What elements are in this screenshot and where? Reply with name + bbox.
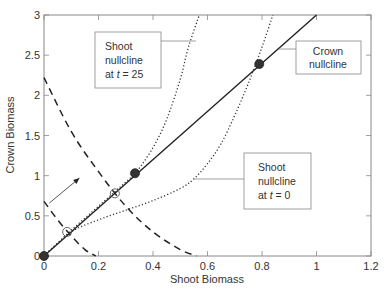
callout-shoot-nullcline-t25: Shoot nullcline at t = 25	[95, 32, 196, 88]
dashed-isocline-upper-line	[44, 78, 197, 256]
callout-crown-nullcline: Crown nullcline	[279, 41, 361, 74]
y-tick-label: 2	[34, 89, 40, 101]
y-tick-label: 1.5	[25, 130, 40, 142]
x-tick-label: 1.2	[363, 260, 378, 272]
svg-text:Crown: Crown	[313, 45, 344, 57]
x-axis-title: Shoot Biomass	[170, 273, 244, 285]
crown-nullcline-line	[44, 15, 317, 256]
series-layer	[44, 15, 317, 256]
y-tick-label: 1	[34, 170, 40, 182]
x-tick-label: 0.2	[91, 260, 106, 272]
stable-equilibrium-point	[131, 169, 140, 178]
y-tick-label: 2.5	[25, 49, 40, 61]
nullcline-chart: 00.20.40.60.811.200.511.522.53 Shoot Bio…	[0, 0, 390, 296]
y-tick-label: 3	[34, 9, 40, 21]
svg-text:nullcline: nullcline	[258, 175, 296, 187]
x-tick-label: 0	[41, 260, 47, 272]
x-tick-label: 0.6	[200, 260, 215, 272]
svg-text:at t = 25: at t = 25	[105, 68, 143, 80]
svg-text:nullcline: nullcline	[309, 58, 347, 70]
y-axis-title: Crown Biomass	[4, 96, 16, 174]
callout-shoot-nullcline-t0: Shoot nullcline at t = 0	[194, 153, 311, 209]
x-tick-label: 1	[313, 260, 319, 272]
svg-text:Shoot: Shoot	[258, 161, 286, 173]
stable-equilibrium-point	[40, 252, 49, 261]
trajectory-arrow	[49, 178, 79, 203]
x-tick-label: 0.4	[145, 260, 160, 272]
y-tick-label: 0	[34, 250, 40, 262]
stable-equilibrium-point	[255, 60, 264, 69]
svg-text:nullcline: nullcline	[105, 54, 143, 66]
x-tick-label: 0.8	[254, 260, 269, 272]
svg-text:Shoot: Shoot	[105, 40, 133, 52]
svg-text:at t = 0: at t = 0	[258, 189, 291, 201]
y-tick-label: 0.5	[25, 210, 40, 222]
